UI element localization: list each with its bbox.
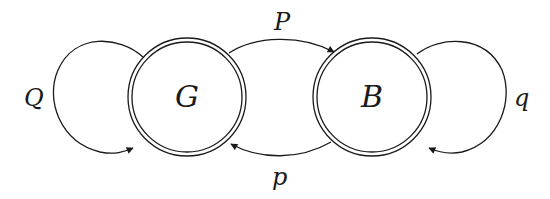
- transition-label-Q: Q: [24, 86, 44, 110]
- transition-arc-P: [229, 39, 334, 53]
- transition-arc-p: [231, 142, 331, 156]
- transition-label-p: p: [272, 165, 287, 189]
- transition-label-q: q: [514, 86, 529, 110]
- state-label-G: G: [175, 82, 199, 112]
- state-label-B: B: [361, 82, 383, 112]
- transition-label-P: P: [274, 10, 290, 34]
- state-diagram: G B Q P p q: [0, 0, 550, 199]
